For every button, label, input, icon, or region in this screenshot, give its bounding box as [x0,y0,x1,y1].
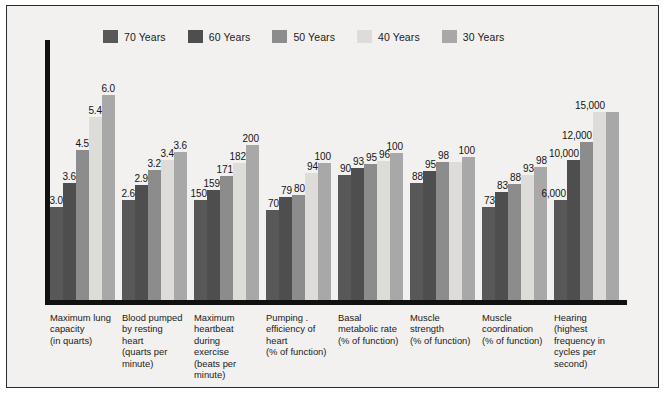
bar-value-label: 2.9 [122,173,148,184]
bar-slot: 2.6 [122,40,135,300]
bar [246,145,259,300]
bar [482,207,495,300]
bar [436,162,449,300]
bar [554,200,567,300]
chart-frame: 70 Years60 Years50 Years40 Years30 Years… [6,5,659,388]
bar-slot [449,40,462,300]
caption-line: (% of function) [482,335,548,346]
bar-group: 3.03.64.55.46.0 [50,40,118,300]
bar [89,117,102,300]
category-caption: Maximum lungcapacity(in quarts) [50,312,118,380]
caption-line: efficiency of [266,323,332,334]
bar [50,207,63,300]
caption-line: heart [266,335,332,346]
caption-line: Pumping . [266,312,332,323]
caption-line: strength [410,323,476,334]
caption-line: heartbeat [194,323,260,334]
bar [338,175,351,300]
category-caption: Musclecoordination(% of function) [482,312,550,380]
bar [279,197,292,300]
bar [534,167,547,300]
bar-slot: 94 [305,40,318,300]
bar-value-label: 80 [279,183,305,194]
caption-line: (% of function) [338,335,404,346]
caption-line: Maximum lung [50,312,116,323]
bar-slot: 90 [338,40,351,300]
caption-line: (% of function) [266,346,332,357]
caption-line: capacity [50,323,116,334]
bar-group: 70798094100 [266,40,334,300]
caption-line: Muscle [482,312,548,323]
bar-group: 150159171182200 [194,40,262,300]
bar-slot: 3.6 [63,40,76,300]
bar-value-label: 3.6 [161,140,187,151]
caption-line: during [194,335,260,346]
caption-line: (quarts per [122,346,188,357]
bar [318,163,331,300]
bar [606,112,619,300]
caption-line: (highest [554,323,620,334]
bar-slot: 95 [364,40,377,300]
bar-slot: 100 [462,40,475,300]
bar-slot [606,40,619,300]
bar [220,176,233,300]
bar-slot: 150 [194,40,207,300]
bar [593,112,606,300]
bar-slot: 3.0 [50,40,63,300]
bar-value-label: 3.2 [135,158,161,169]
bar-value-label: 3.6 [50,171,76,182]
caption-line: second) [554,358,620,369]
bar-group: 6,00010,00012,00015,000 [554,40,622,300]
bar-slot: 95 [423,40,436,300]
bar-value-label: 73 [469,195,495,206]
bar [207,190,220,300]
bar [122,200,135,300]
category-caption: Blood pumpedby restingheart(quarts permi… [122,312,190,380]
caption-line: Maximum [194,312,260,323]
bar [449,162,462,300]
bar-slot: 3.6 [174,40,187,300]
bar-value-label: 100 [449,145,475,156]
bar [266,210,279,300]
bar [364,164,377,300]
bar-slot: 88 [410,40,423,300]
bar-slot: 10,000 [567,40,580,300]
bar-value-label: 2.6 [109,188,135,199]
caption-line: by resting [122,323,188,334]
bar [174,152,187,300]
category-captions: Maximum lungcapacity(in quarts)Blood pum… [50,312,646,380]
bar-group: 889598100 [410,40,478,300]
bar-value-label: 94 [292,161,318,172]
plot-area: 3.03.64.55.46.02.62.93.23.43.61501591711… [45,40,641,305]
bar-slot: 200 [246,40,259,300]
bar-slot: 73 [482,40,495,300]
bar [410,183,423,300]
bar-slot: 6.0 [102,40,115,300]
category-caption: Musclestrength(% of function) [410,312,478,380]
bar-value-label: 150 [181,188,207,199]
bar [580,142,593,300]
bar [351,168,364,300]
category-caption: Hearing(highestfrequency incycles persec… [554,312,622,380]
category-caption: Maximumheartbeatduringexercise(beats per… [194,312,262,380]
bar-slot: 4.5 [76,40,89,300]
bar [76,150,89,300]
bar-slot: 83 [495,40,508,300]
bar [135,185,148,300]
x-axis-line [45,300,627,305]
category-caption: Basalmetabolic rate(% of function) [338,312,406,380]
bar-value-label: 98 [423,150,449,161]
caption-line: frequency in [554,335,620,346]
caption-line: (beats per [194,358,260,369]
bar-slot: 93 [351,40,364,300]
bar-slot: 5.4 [89,40,102,300]
bar [161,160,174,300]
caption-line: coordination [482,323,548,334]
bar-value-label: 88 [397,171,423,182]
bar-slot: 3.4 [161,40,174,300]
bar-value-label: 70 [253,198,279,209]
bar-slot: 12,000 [580,40,593,300]
bar-slot: 93 [521,40,534,300]
caption-line: heart [122,335,188,346]
bar [508,184,521,300]
